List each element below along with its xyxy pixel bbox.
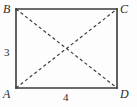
side-length-label-height: 3 [4,47,10,58]
side-length-label-width: 4 [63,92,69,103]
vertex-label-c: C [120,3,128,15]
geometry-figure: B C A D 3 4 [0,0,137,107]
vertex-label-a: A [3,88,10,100]
vertex-label-d: D [120,88,129,100]
vertex-label-b: B [3,3,10,15]
